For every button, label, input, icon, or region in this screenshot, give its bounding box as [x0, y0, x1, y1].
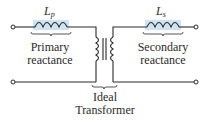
symbol-letter: L: [156, 4, 163, 18]
terminal-top-right: [194, 25, 198, 29]
secondary-inductor-highlight: [145, 20, 181, 30]
symbol-subscript: p: [51, 10, 55, 19]
label-line: reactance: [15, 54, 85, 67]
secondary-brace: [143, 32, 183, 36]
secondary-coil: [111, 37, 114, 61]
transformer-brace: [92, 85, 117, 89]
terminal-bottom-left: [11, 80, 15, 84]
label-line: reactance: [126, 54, 200, 67]
wire-secondary-top: [113, 27, 147, 37]
ideal-transformer-label: Ideal Transformer: [70, 91, 140, 117]
primary-coil: [96, 37, 99, 61]
secondary-reactance-label: Secondary reactance: [126, 41, 200, 67]
transformer-circuit-diagram: Lp Ls Primary reactance Secondary reacta…: [0, 0, 210, 123]
symbol-subscript: s: [163, 10, 166, 19]
terminal-bottom-right: [194, 80, 198, 84]
symbol-letter: L: [44, 4, 51, 18]
primary-reactance-label: Primary reactance: [15, 41, 85, 67]
label-line: Transformer: [70, 104, 140, 117]
primary-inductor-highlight: [33, 20, 69, 30]
secondary-inductor-symbol: Ls: [156, 5, 166, 21]
primary-brace: [31, 32, 71, 36]
terminal-top-left: [11, 25, 15, 29]
primary-inductor-symbol: Lp: [44, 5, 55, 21]
